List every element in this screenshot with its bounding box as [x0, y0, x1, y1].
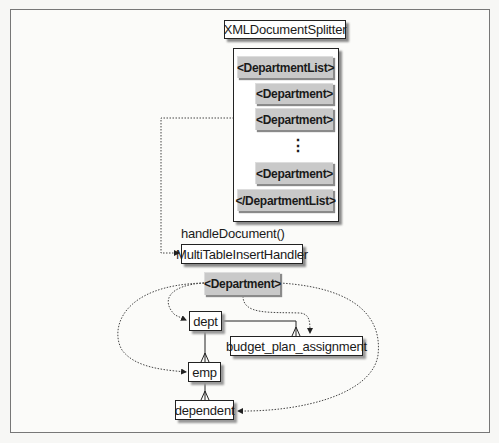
table-label: dept	[193, 314, 218, 329]
handler-label: MultiTableInsertHandler	[176, 247, 308, 262]
table-label: dependent	[175, 403, 235, 418]
to-budget-arrow	[243, 296, 310, 333]
handle-document-label: handleDocument()	[181, 226, 285, 241]
ellipsis-icon: ⋮	[290, 133, 306, 159]
element-department-2: <Department>	[255, 108, 333, 130]
current-department-element: <Department>	[204, 272, 280, 295]
table-label: emp	[192, 365, 217, 380]
element-label: <Department>	[256, 167, 333, 181]
splitter-label: XMLDocumentSplitter	[224, 22, 347, 37]
element-label: </DepartmentList>	[235, 194, 335, 208]
table-budget-plan-assignment: budget_plan_assignment	[230, 336, 363, 356]
element-department-list-open: <DepartmentList>	[237, 56, 333, 78]
dept-budget-relation	[222, 321, 296, 336]
element-label: <DepartmentList>	[237, 61, 334, 75]
element-label: <Department>	[204, 277, 281, 291]
element-department-1: <Department>	[255, 83, 333, 104]
multi-table-insert-handler-box: MultiTableInsertHandler	[181, 244, 303, 264]
table-dept: dept	[189, 311, 222, 331]
table-dependent: dependent	[175, 400, 234, 420]
element-department-n: <Department>	[255, 162, 333, 184]
table-label: budget_plan_assignment	[226, 339, 367, 354]
element-department-list-close: </DepartmentList>	[237, 189, 333, 211]
xml-document-splitter-box: XMLDocumentSplitter	[224, 20, 346, 39]
element-label: <Department>	[256, 113, 333, 127]
table-emp: emp	[188, 362, 221, 382]
element-label: <Department>	[256, 87, 333, 101]
